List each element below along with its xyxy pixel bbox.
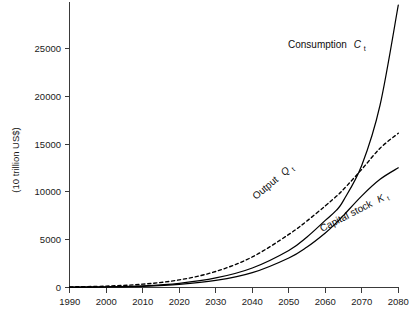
x-tick-label-2070: 2070 [351, 296, 372, 307]
y-axis-title: (10 trillion US$) [10, 127, 21, 192]
x-tick-label-2020: 2020 [169, 296, 190, 307]
x-tick-label-2030: 2030 [205, 296, 226, 307]
x-tick-label-2050: 2050 [278, 296, 299, 307]
y-tick-marks [65, 48, 70, 287]
series-line-capital-stock [70, 168, 399, 288]
consumption-curve-label: Consumption C t [288, 39, 366, 52]
x-tick-marks [70, 288, 399, 293]
capital-stock-curve-label: Capital stock K t [318, 190, 391, 235]
chart-figure: 0 5000 10000 15000 20000 25000 1990 2000… [0, 0, 416, 314]
x-tick-label-1990: 1990 [59, 296, 80, 307]
output-curve-label: Output Q t [250, 161, 296, 202]
x-tick-label-2010: 2010 [132, 296, 153, 307]
x-tick-label-2060: 2060 [315, 296, 336, 307]
x-tick-label-2000: 2000 [96, 296, 117, 307]
chart-canvas: 0 5000 10000 15000 20000 25000 1990 2000… [0, 0, 416, 314]
y-tick-label-20000: 20000 [35, 91, 61, 102]
y-tick-label-0: 0 [56, 282, 61, 293]
series-labels: Consumption C t Output Q t Capital stock… [250, 39, 391, 235]
y-tick-label-10000: 10000 [35, 186, 61, 197]
y-tick-label-25000: 25000 [35, 43, 61, 54]
x-tick-label-2040: 2040 [242, 296, 263, 307]
y-tick-labels: 0 5000 10000 15000 20000 25000 [35, 43, 61, 293]
x-tick-labels: 1990 2000 2010 2020 2030 2040 2050 2060 … [59, 296, 409, 307]
x-tick-label-2080: 2080 [388, 296, 409, 307]
y-tick-label-15000: 15000 [35, 139, 61, 150]
y-tick-label-5000: 5000 [40, 234, 61, 245]
